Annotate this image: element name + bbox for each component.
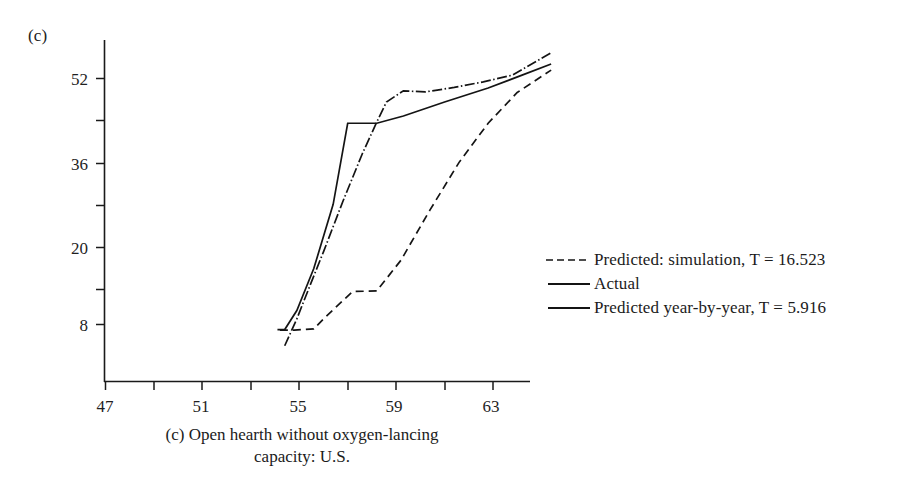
- x-tick-labels: 47 51 55 59 63: [97, 397, 500, 416]
- x-tick-label-47: 47: [97, 397, 115, 416]
- legend-item-predicted-simulation: Predicted: simulation, T = 16.523: [545, 248, 905, 272]
- legend-label-predicted-simulation: Predicted: simulation, T = 16.523: [594, 250, 825, 270]
- legend-label-actual: Actual: [594, 274, 640, 294]
- axis-lines: [104, 40, 530, 382]
- chart-plot-area: 52 36 20 8 47 51 55 59 63: [0, 0, 917, 487]
- legend-swatch-solid-alt-icon: [545, 302, 591, 314]
- y-axis-ticks: [96, 79, 104, 325]
- series-line-predicted-simulation: [280, 70, 551, 330]
- series-group: [277, 53, 551, 346]
- caption-line-2: capacity: U.S.: [92, 446, 512, 468]
- x-tick-label-63: 63: [483, 397, 500, 416]
- y-tick-labels: 52 36 20 8: [71, 70, 88, 335]
- figure-panel-c: (c) 52 36 20 8: [0, 0, 917, 487]
- x-tick-label-55: 55: [290, 397, 307, 416]
- legend-item-actual: Actual: [545, 272, 905, 296]
- legend-item-predicted-year-by-year: Predicted year-by-year, T = 5.916: [545, 296, 905, 320]
- y-tick-label-8: 8: [80, 316, 89, 335]
- series-line-predicted-year-by-year: [285, 53, 551, 346]
- caption-line-1: (c) Open hearth without oxygen-lancing: [92, 424, 512, 446]
- x-axis-ticks: [106, 382, 494, 390]
- figure-caption: (c) Open hearth without oxygen-lancing c…: [92, 424, 512, 469]
- chart-legend: Predicted: simulation, T = 16.523 Actual…: [545, 248, 905, 320]
- x-tick-label-51: 51: [193, 397, 210, 416]
- x-tick-label-59: 59: [386, 397, 403, 416]
- y-tick-label-20: 20: [71, 239, 88, 258]
- legend-swatch-solid-icon: [545, 278, 591, 290]
- y-tick-label-52: 52: [71, 70, 88, 89]
- legend-swatch-dashed-icon: [545, 254, 591, 266]
- legend-label-predicted-year-by-year: Predicted year-by-year, T = 5.916: [594, 298, 826, 318]
- y-tick-label-36: 36: [71, 155, 88, 174]
- series-line-actual: [277, 64, 551, 330]
